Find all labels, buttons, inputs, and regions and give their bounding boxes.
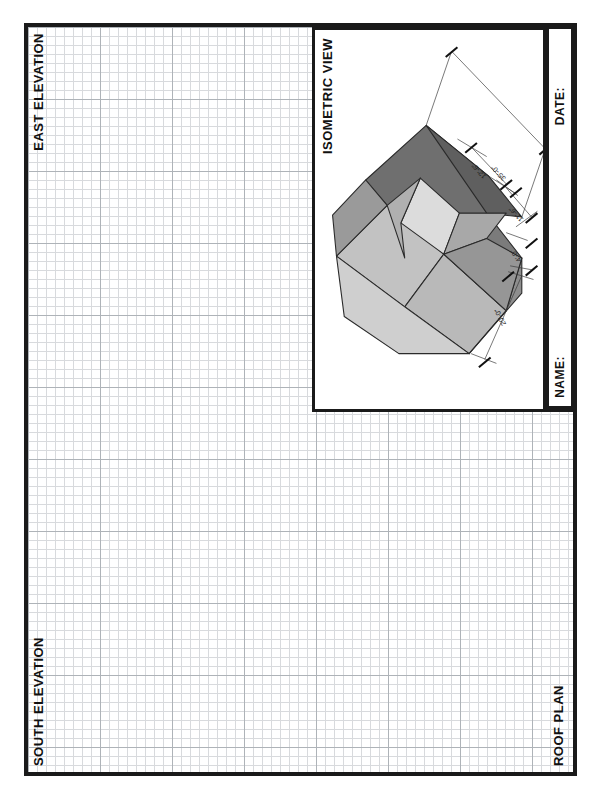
title-block-inner: DATE: NAME: — [547, 27, 573, 408]
title-block: DATE: NAME: — [543, 27, 573, 412]
roof-plan-label: ROOF PLAN — [552, 685, 565, 766]
title-block-name-field[interactable]: NAME: — [554, 356, 566, 398]
south-elevation-label: SOUTH ELEVATION — [32, 637, 45, 766]
isometric-model-drawing: 35'-0" 12'-6" 11'-6" 4'-0" 20'-0" — [315, 30, 554, 409]
east-elevation-label: EAST ELEVATION — [32, 33, 45, 151]
dimension-overall-length: 35'-0" — [489, 164, 507, 182]
isometric-model-svg: 35'-0" 12'-6" 11'-6" 4'-0" 20'-0" — [315, 30, 554, 409]
isometric-view-panel: ISOMETRIC VIEW — [312, 27, 557, 412]
drawing-sheet-body: EAST ELEVATION SOUTH ELEVATION ROOF PLAN… — [28, 27, 573, 772]
drawing-sheet-border: EAST ELEVATION SOUTH ELEVATION ROOF PLAN… — [24, 23, 577, 776]
title-block-date-field[interactable]: DATE: — [554, 87, 566, 125]
